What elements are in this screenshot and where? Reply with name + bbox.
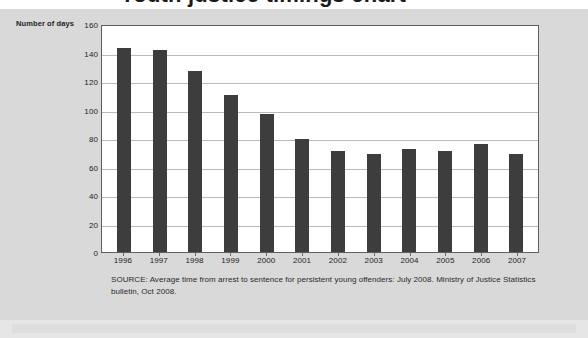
x-tick-label: 2007 bbox=[499, 256, 535, 265]
bar-2003[interactable] bbox=[367, 154, 381, 252]
x-tick-label: 2006 bbox=[463, 256, 499, 265]
bar-2004[interactable] bbox=[402, 149, 416, 252]
bar-slot bbox=[284, 26, 320, 252]
chart-page: Youth justice timings chart Number of da… bbox=[0, 0, 588, 338]
headline-strip: Youth justice timings chart bbox=[0, 0, 588, 9]
bar-1996[interactable] bbox=[117, 48, 131, 252]
x-tick-label: 1997 bbox=[141, 256, 177, 265]
y-tick-label: 140 bbox=[72, 49, 98, 58]
bar-slot bbox=[463, 26, 499, 252]
bar-slot bbox=[177, 26, 213, 252]
bar-slot bbox=[106, 26, 142, 252]
x-tick-label: 1996 bbox=[105, 256, 141, 265]
y-tick-label: 100 bbox=[72, 106, 98, 115]
bar-slot bbox=[249, 26, 285, 252]
x-axis-tick-labels: 1996199719981999200020012002200320042005… bbox=[101, 256, 539, 265]
x-tick-label: 1998 bbox=[177, 256, 213, 265]
y-tick-label: 40 bbox=[72, 192, 98, 201]
x-tick-label: 2002 bbox=[320, 256, 356, 265]
page-bottom-band-inner bbox=[12, 324, 576, 333]
bar-1999[interactable] bbox=[224, 95, 238, 252]
y-axis-title: Number of days bbox=[16, 19, 74, 28]
y-tick-label: 60 bbox=[72, 163, 98, 172]
bars-layer bbox=[102, 26, 538, 252]
y-tick-label: 80 bbox=[72, 135, 98, 144]
plot-area bbox=[101, 25, 539, 253]
bar-slot bbox=[213, 26, 249, 252]
y-tick-label: 0 bbox=[72, 249, 98, 258]
y-tick-label: 160 bbox=[72, 21, 98, 30]
x-tick-label: 2005 bbox=[427, 256, 463, 265]
bar-2001[interactable] bbox=[295, 139, 309, 252]
bar-2000[interactable] bbox=[260, 114, 274, 252]
bar-slot bbox=[391, 26, 427, 252]
bar-1997[interactable] bbox=[153, 50, 167, 252]
source-note: SOURCE: Average time from arrest to sent… bbox=[111, 274, 551, 297]
bar-slot bbox=[498, 26, 534, 252]
bar-1998[interactable] bbox=[188, 71, 202, 252]
x-tick-label: 2003 bbox=[356, 256, 392, 265]
bar-2007[interactable] bbox=[509, 154, 523, 252]
bar-slot bbox=[427, 26, 463, 252]
bar-2005[interactable] bbox=[438, 151, 452, 252]
bar-2002[interactable] bbox=[331, 151, 345, 252]
y-axis-tick-labels: 160140120100806040200 bbox=[68, 25, 98, 253]
y-tick-label: 120 bbox=[72, 78, 98, 87]
x-tick-label: 2000 bbox=[248, 256, 284, 265]
bar-2006[interactable] bbox=[474, 144, 488, 252]
bar-slot bbox=[142, 26, 178, 252]
x-tick-label: 1999 bbox=[212, 256, 248, 265]
bar-slot bbox=[356, 26, 392, 252]
x-tick-label: 2004 bbox=[392, 256, 428, 265]
x-tick-label: 2001 bbox=[284, 256, 320, 265]
bar-slot bbox=[320, 26, 356, 252]
y-tick-label: 20 bbox=[72, 220, 98, 229]
headline-partial-text: Youth justice timings chart bbox=[120, 0, 406, 8]
page-bottom-band bbox=[0, 320, 588, 338]
